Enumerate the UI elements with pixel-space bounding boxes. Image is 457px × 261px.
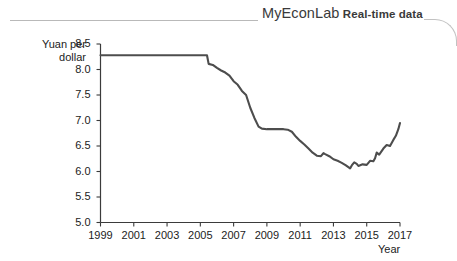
y-tick-label-5.5: 5.5 bbox=[61, 190, 91, 202]
y-tick-label-7.5: 7.5 bbox=[61, 88, 91, 100]
x-axis-ticks bbox=[101, 223, 401, 227]
y-tick-label-8.0: 8.0 bbox=[61, 63, 91, 75]
y-tick-label-6.5: 6.5 bbox=[61, 139, 91, 151]
x-axis-title: Year bbox=[378, 243, 400, 255]
x-tick-label-2017: 2017 bbox=[380, 229, 420, 241]
y-tick-label-7.0: 7.0 bbox=[61, 114, 91, 126]
series-line-yuan-per-dollar bbox=[101, 55, 401, 168]
chart-axes bbox=[101, 44, 401, 223]
chart-series-group bbox=[101, 55, 401, 168]
y-tick-label-8.5: 8.5 bbox=[61, 37, 91, 49]
y-tick-label-5.0: 5.0 bbox=[61, 216, 91, 228]
y-tick-label-6.0: 6.0 bbox=[61, 165, 91, 177]
